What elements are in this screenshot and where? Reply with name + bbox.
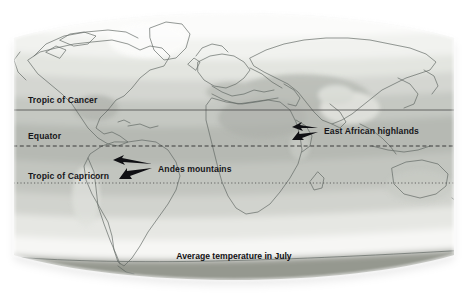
world-temperature-map: Tropic of Cancer Equator Tropic of Capri… (0, 0, 468, 293)
label-andes-mountains: Andes mountains (158, 164, 232, 174)
temperature-bands (0, 0, 468, 293)
map-body: Tropic of Cancer Equator Tropic of Capri… (0, 0, 468, 293)
label-east-african-highlands: East African highlands (324, 126, 419, 136)
map-caption: Average temperature in July (176, 251, 291, 261)
figure-root: Tropic of Cancer Equator Tropic of Capri… (0, 0, 468, 293)
shade-arabia (206, 82, 258, 102)
label-tropic-of-cancer: Tropic of Cancer (28, 95, 98, 105)
label-tropic-of-capricorn: Tropic of Capricorn (28, 171, 109, 181)
shade-sahara (218, 98, 306, 138)
shade-himalaya (318, 85, 354, 105)
shade-greenland (108, 22, 188, 58)
label-equator: Equator (28, 131, 62, 141)
